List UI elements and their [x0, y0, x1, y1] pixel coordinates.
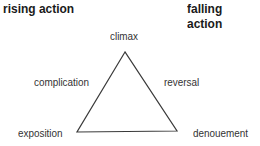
plot-triangle — [0, 0, 260, 146]
